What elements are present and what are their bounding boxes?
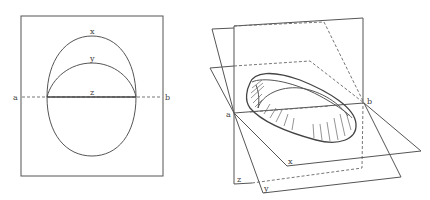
ellipsoid-hatching: [251, 80, 351, 141]
plane-y-top: [212, 28, 234, 29]
label-z-right: z: [237, 175, 241, 184]
label-a-left: a: [13, 93, 18, 102]
plane-z-top: [234, 18, 363, 103]
left-panel: a b x y z: [13, 16, 170, 176]
plane-z-hidden-edges: [252, 103, 363, 183]
right-panel: a b x y z: [210, 18, 421, 193]
plane-x-back-dashed: [234, 61, 364, 103]
label-b-left: b: [165, 93, 170, 102]
ellipsoid-ridge-y: [258, 88, 348, 116]
label-b-right: b: [367, 97, 372, 106]
plane-y-upper-edge: [212, 29, 234, 113]
label-x-right: x: [288, 157, 293, 166]
label-z-left: z: [90, 88, 94, 97]
label-y-left: y: [89, 54, 95, 63]
label-y-right: y: [263, 184, 269, 193]
plane-x-left-edge: [210, 68, 234, 113]
label-x-left: x: [90, 27, 95, 36]
label-a-right: a: [226, 110, 231, 119]
diagram-canvas: a b x y z: [0, 0, 430, 200]
plane-x-lower: [234, 103, 421, 166]
